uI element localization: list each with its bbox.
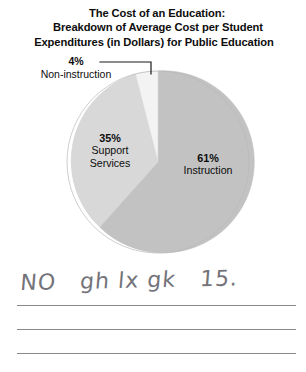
rule-line-3 (17, 353, 296, 354)
slice-percent-instruction: 61% (168, 152, 248, 164)
pie-chart-svg (0, 52, 306, 262)
title-line-3: Expenditures (in Dollars) for Public Edu… (0, 35, 306, 49)
page-title: The Cost of an Education: Breakdown of A… (0, 6, 306, 49)
rule-line-2 (17, 329, 296, 330)
slice-name-instruction: Instruction (168, 164, 248, 176)
callout-non-instruction: 4% Non-instruction (16, 55, 136, 80)
slice-percent-support-services: 35% (72, 132, 148, 144)
callout-label: Non-instruction (16, 68, 136, 81)
rule-line-1 (17, 305, 296, 306)
slice-name-support-services-1: Support (72, 144, 148, 156)
handwritten-answer: NO gh lx gk 15. (18, 264, 292, 310)
slice-label-support-services: 35% Support Services (72, 132, 148, 169)
title-line-2: Breakdown of Average Cost per Student (0, 20, 306, 34)
slice-label-instruction: 61% Instruction (168, 152, 248, 177)
title-line-1: The Cost of an Education: (0, 6, 306, 20)
answer-area: NO gh lx gk 15. (0, 262, 306, 372)
pie-chart (0, 52, 306, 262)
callout-percent: 4% (16, 55, 136, 68)
slice-name-support-services-2: Services (72, 157, 148, 169)
